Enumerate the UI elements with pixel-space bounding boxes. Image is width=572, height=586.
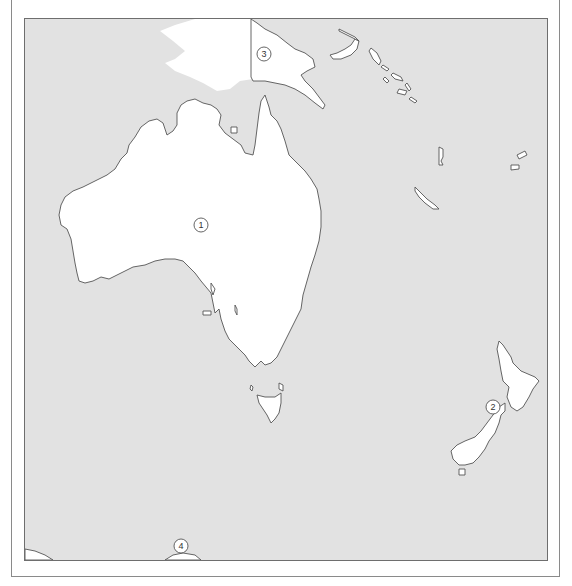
kangaroo-island[interactable] [203,311,211,315]
solomon-island-5[interactable] [405,83,411,91]
antarctica-edge-left[interactable] [25,549,53,560]
stewart-island [459,469,465,475]
marker-2-label: 2 [490,402,495,412]
fiji-viti-levu[interactable] [511,165,519,170]
vanuatu[interactable] [439,147,443,165]
solomon-island-6[interactable] [397,89,407,95]
solomon-island-3[interactable] [391,73,403,81]
papua-new-guinea[interactable] [251,19,325,109]
solomon-island-7[interactable] [409,97,417,103]
new-ireland[interactable] [339,29,359,41]
marker-3[interactable]: 3 [257,47,271,61]
map-frame: 1 2 3 4 [24,18,548,561]
marker-3-label: 3 [261,49,266,59]
new-zealand-north-island[interactable] [497,341,539,411]
marker-2[interactable]: 2 [486,400,500,414]
solomon-island-1[interactable] [369,48,381,65]
oceania-map: 1 2 3 4 [25,19,547,560]
australia-mainland[interactable] [59,95,321,367]
solomon-island-2[interactable] [381,65,389,71]
antarctica-edge-center[interactable] [165,553,201,560]
new-britain[interactable] [330,39,359,59]
tasmania[interactable] [257,393,281,423]
king-island [250,385,253,391]
marker-4-label: 4 [178,541,183,551]
groote-eylandt [231,127,237,133]
marker-1-label: 1 [198,220,203,230]
west-new-guinea [160,19,253,91]
marker-1[interactable]: 1 [194,218,208,232]
marker-4[interactable]: 4 [174,539,188,553]
fiji-vanua-levu[interactable] [517,151,527,159]
solomon-island-4[interactable] [383,77,389,83]
new-caledonia[interactable] [415,187,439,209]
flinders-island [279,383,283,391]
